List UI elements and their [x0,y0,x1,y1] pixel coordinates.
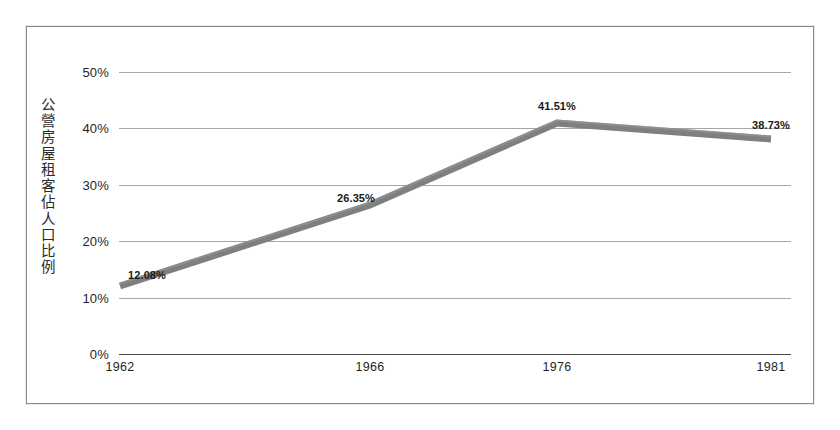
data-label-1976: 41.51% [538,100,576,112]
chart-frame: 公營房屋租客佔人口比例 50% 40% 30% 20% 10% 0% 12.08… [26,26,814,404]
data-label-1966: 26.35% [337,192,375,204]
series-line-chart [27,27,815,405]
x-tick-label-1966: 1966 [355,360,384,374]
plot-area: 公營房屋租客佔人口比例 50% 40% 30% 20% 10% 0% 12.08… [27,27,815,405]
data-label-1981: 38.73% [752,119,790,131]
data-label-1962: 12.08% [128,269,166,281]
x-tick-label-1962: 1962 [105,360,134,374]
series-polyline-shade [120,121,771,284]
x-tick-label-1981: 1981 [756,360,785,374]
series-polyline [120,123,771,286]
x-tick-label-1976: 1976 [542,360,571,374]
